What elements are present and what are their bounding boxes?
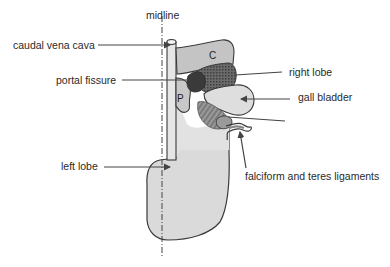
- label-gall-bladder: gall bladder: [298, 91, 352, 103]
- ligament-strand-fill: [229, 127, 244, 129]
- label-portal-fissure: portal fissure: [56, 74, 116, 86]
- label-caudal-vena-cava: caudal vena cava: [13, 39, 95, 51]
- label-falciform-teres: falciform and teres ligaments: [245, 170, 379, 182]
- vena-cava-opening: [167, 40, 176, 45]
- leader-falciform: [240, 132, 246, 168]
- papillary-letter: P: [177, 93, 184, 104]
- label-midline: midline: [146, 9, 179, 21]
- label-right-lobe: right lobe: [289, 66, 332, 78]
- caudate-letter: C: [209, 50, 216, 61]
- leader-right-lobe: [235, 72, 282, 75]
- portal-fissure-shape: [187, 72, 205, 92]
- liver-diagram: C P midline caudal vena cava portal fiss…: [0, 0, 390, 267]
- caudal-vena-cava-shape: [167, 42, 176, 160]
- label-left-lobe: left lobe: [61, 160, 98, 172]
- leader-quadrate: [228, 117, 285, 121]
